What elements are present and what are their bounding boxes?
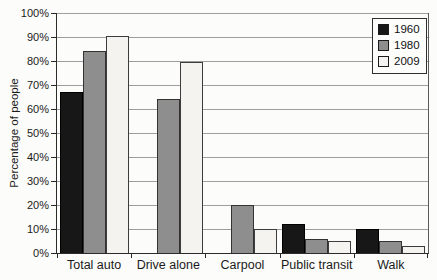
- bar: [254, 229, 277, 253]
- y-tick-label: 20%: [0, 200, 49, 211]
- bar: [402, 246, 425, 253]
- y-tick-mark: [51, 133, 56, 134]
- y-tick-mark: [51, 61, 56, 62]
- y-tick-label: 80%: [0, 56, 49, 67]
- bar: [356, 229, 379, 253]
- y-tick-mark: [51, 205, 56, 206]
- bar: [83, 51, 106, 253]
- y-tick-label: 50%: [0, 128, 49, 139]
- bar: [231, 205, 254, 253]
- category-label: Public transit: [280, 258, 354, 272]
- legend-swatch: [378, 24, 389, 35]
- bar: [106, 36, 129, 253]
- y-tick-mark: [51, 37, 56, 38]
- y-tick-mark: [51, 157, 56, 158]
- y-tick-mark: [51, 229, 56, 230]
- y-tick-mark: [51, 13, 56, 14]
- bar-group: [57, 13, 131, 253]
- bar-group: [131, 13, 205, 253]
- y-tick-label: 90%: [0, 32, 49, 43]
- y-tick-label: 100%: [0, 8, 49, 19]
- legend-swatch: [378, 40, 389, 51]
- y-tick-label: 60%: [0, 104, 49, 115]
- legend-label: 2009: [394, 55, 420, 68]
- bar: [180, 62, 203, 253]
- bar-chart: Percentage of people 0%10%20%30%40%50%60…: [0, 0, 437, 280]
- category-label: Drive alone: [131, 258, 205, 272]
- category-label: Walk: [354, 258, 428, 272]
- y-tick-label: 30%: [0, 176, 49, 187]
- y-tick-mark: [51, 109, 56, 110]
- legend-label: 1960: [394, 23, 420, 36]
- y-tick-mark: [51, 253, 56, 254]
- y-tick-label: 10%: [0, 224, 49, 235]
- bar: [282, 224, 305, 253]
- bar: [157, 99, 180, 253]
- legend-swatch: [378, 56, 389, 67]
- y-tick-label: 70%: [0, 80, 49, 91]
- category-label: Total auto: [57, 258, 131, 272]
- legend-item: 1980: [378, 39, 420, 52]
- bar-group: [280, 13, 354, 253]
- legend-label: 1980: [394, 39, 420, 52]
- legend: 196019802009: [372, 18, 427, 74]
- category-label: Carpool: [205, 258, 279, 272]
- y-tick-label: 40%: [0, 152, 49, 163]
- y-tick-mark: [51, 85, 56, 86]
- bar: [60, 92, 83, 253]
- legend-item: 2009: [378, 55, 420, 68]
- legend-item: 1960: [378, 23, 420, 36]
- y-tick-label: 0%: [0, 248, 49, 259]
- bar-group: [205, 13, 279, 253]
- bar: [379, 241, 402, 253]
- bar: [328, 241, 351, 253]
- y-tick-mark: [51, 181, 56, 182]
- bar: [305, 239, 328, 253]
